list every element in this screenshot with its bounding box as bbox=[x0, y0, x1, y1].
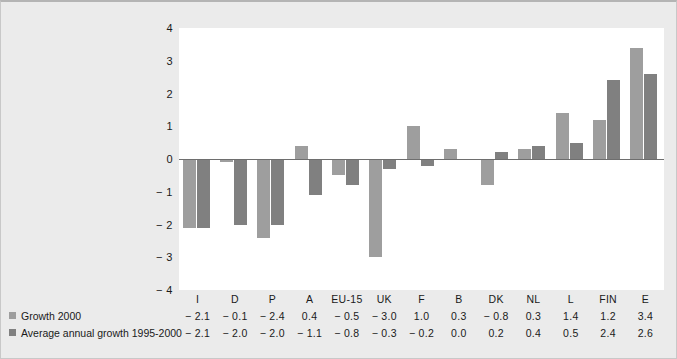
category-label: E bbox=[627, 293, 664, 305]
category-label: P bbox=[254, 293, 291, 305]
series-row-1: Average annual growth 1995-2000 − 2.1− 2… bbox=[1, 324, 677, 341]
bar bbox=[197, 159, 210, 228]
category-label: EU-15 bbox=[328, 293, 365, 305]
data-table: IDPAEU-15UKFBDKNLLFINE Growth 2000 − 2.1… bbox=[1, 290, 677, 341]
y-axis: 43210− 1− 2− 3− 4 bbox=[141, 28, 173, 290]
category-row: IDPAEU-15UKFBDKNLLFINE bbox=[1, 290, 677, 307]
bar bbox=[630, 48, 643, 159]
value-cell: − 2.1 bbox=[179, 310, 216, 322]
bar bbox=[271, 159, 284, 225]
legend-label: Growth 2000 bbox=[21, 310, 81, 322]
plot-area bbox=[179, 28, 664, 290]
y-axis-tick: 3 bbox=[166, 55, 173, 67]
bar bbox=[570, 143, 583, 159]
category-label: D bbox=[216, 293, 253, 305]
value-cell: 1.2 bbox=[589, 310, 626, 322]
bar bbox=[444, 149, 457, 159]
category-label: B bbox=[440, 293, 477, 305]
bar bbox=[383, 159, 396, 169]
bar bbox=[532, 146, 545, 159]
category-label: UK bbox=[366, 293, 403, 305]
value-cell: 0.0 bbox=[440, 327, 477, 339]
category-label: I bbox=[179, 293, 216, 305]
y-axis-tick: − 2 bbox=[156, 219, 173, 231]
value-cell: 0.2 bbox=[478, 327, 515, 339]
bar bbox=[346, 159, 359, 185]
y-axis-tick: 2 bbox=[166, 88, 173, 100]
chart-figure: 43210− 1− 2− 3− 4 IDPAEU-15UKFBDKNLLFINE… bbox=[0, 0, 677, 359]
bar bbox=[481, 159, 494, 185]
bar bbox=[309, 159, 322, 195]
bar bbox=[556, 113, 569, 159]
value-cell: 0.4 bbox=[515, 327, 552, 339]
value-cell: − 0.2 bbox=[403, 327, 440, 339]
value-cell: 0.3 bbox=[440, 310, 477, 322]
legend-label: Average annual growth 1995-2000 bbox=[21, 327, 182, 339]
bar bbox=[593, 120, 606, 159]
y-axis-tick: 1 bbox=[166, 120, 173, 132]
value-cell: − 0.3 bbox=[366, 327, 403, 339]
value-cell: − 2.0 bbox=[216, 327, 253, 339]
value-cell: 0.4 bbox=[291, 310, 328, 322]
category-label: L bbox=[552, 293, 589, 305]
y-axis-tick: − 1 bbox=[156, 186, 173, 198]
category-label: A bbox=[291, 293, 328, 305]
category-label: FIN bbox=[589, 293, 626, 305]
bar bbox=[295, 146, 308, 159]
legend-swatch-icon bbox=[9, 329, 16, 336]
legend-item-growth-2000: Growth 2000 bbox=[1, 310, 179, 322]
bar bbox=[332, 159, 345, 175]
value-cell: − 2.4 bbox=[254, 310, 291, 322]
y-axis-tick: − 3 bbox=[156, 251, 173, 263]
bar bbox=[407, 126, 420, 159]
zero-baseline bbox=[179, 159, 664, 160]
value-cell: − 3.0 bbox=[366, 310, 403, 322]
bar bbox=[369, 159, 382, 257]
series-0-cells: − 2.1− 0.1− 2.40.4− 0.5− 3.01.00.3− 0.80… bbox=[179, 310, 664, 322]
value-cell: 2.6 bbox=[627, 327, 664, 339]
value-cell: 3.4 bbox=[627, 310, 664, 322]
bar bbox=[607, 80, 620, 159]
bar bbox=[518, 149, 531, 159]
value-cell: 1.4 bbox=[552, 310, 589, 322]
value-cell: 1.0 bbox=[403, 310, 440, 322]
value-cell: 2.4 bbox=[589, 327, 626, 339]
legend-item-average-annual-growth: Average annual growth 1995-2000 bbox=[1, 327, 179, 339]
y-axis-tick: 4 bbox=[166, 22, 173, 34]
category-label: F bbox=[403, 293, 440, 305]
value-cell: − 0.8 bbox=[478, 310, 515, 322]
bar bbox=[644, 74, 657, 159]
bar bbox=[257, 159, 270, 238]
category-label: NL bbox=[515, 293, 552, 305]
y-axis-tick: 0 bbox=[166, 153, 173, 165]
series-row-0: Growth 2000 − 2.1− 0.1− 2.40.4− 0.5− 3.0… bbox=[1, 307, 677, 324]
bar bbox=[234, 159, 247, 225]
value-cell: − 0.1 bbox=[216, 310, 253, 322]
category-cells: IDPAEU-15UKFBDKNLLFINE bbox=[179, 293, 664, 305]
value-cell: − 2.0 bbox=[254, 327, 291, 339]
value-cell: − 0.5 bbox=[328, 310, 365, 322]
value-cell: − 0.8 bbox=[328, 327, 365, 339]
category-label: DK bbox=[478, 293, 515, 305]
value-cell: − 2.1 bbox=[179, 327, 216, 339]
series-1-cells: − 2.1− 2.0− 2.0− 1.1− 0.8− 0.3− 0.20.00.… bbox=[179, 327, 664, 339]
value-cell: 0.5 bbox=[552, 327, 589, 339]
bar bbox=[183, 159, 196, 228]
value-cell: 0.3 bbox=[515, 310, 552, 322]
bar bbox=[495, 152, 508, 159]
legend-swatch-icon bbox=[9, 312, 16, 319]
value-cell: − 1.1 bbox=[291, 327, 328, 339]
